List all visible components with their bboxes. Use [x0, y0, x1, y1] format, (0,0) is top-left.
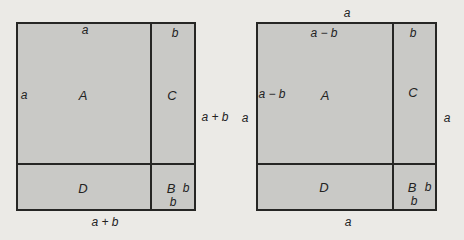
left-square-region-d-label: D — [78, 182, 87, 195]
right-square-b-side-label-below: b — [411, 195, 418, 207]
left-square-left-side-label: a — [21, 89, 28, 101]
left-square-b-side-label-right: b — [183, 182, 190, 194]
right-square-region-a-label: A — [321, 89, 330, 102]
right-square-b-side-label-right: b — [425, 181, 432, 193]
right-square-left-side-label: a − b — [258, 88, 285, 100]
right-square-top-outer-label: a — [344, 7, 351, 19]
right-square-right-outer-label: a — [444, 112, 451, 124]
left-square-right-outer-label: a + b — [201, 111, 228, 123]
right-square-region-d-label: D — [319, 181, 328, 194]
left-square-region-a-label: A — [79, 89, 88, 102]
right-square-horizontal-divider — [258, 163, 435, 165]
right-square-region-c-label: C — [408, 86, 417, 99]
left-square-b-side-label-below: b — [170, 196, 177, 208]
right-square-top-side-label: a − b — [310, 27, 337, 39]
left-square-horizontal-divider — [18, 163, 194, 165]
left-square-top-right-side-label: b — [172, 27, 179, 39]
right-square-region-b-label: B — [408, 181, 417, 194]
left-square-vertical-divider — [150, 24, 152, 209]
left-square-bottom-outer-label: a + b — [91, 216, 118, 228]
right-square-bottom-outer-label: a — [345, 216, 352, 228]
left-square-top-side-label: a — [82, 24, 89, 36]
left-square-region-c-label: C — [167, 89, 176, 102]
left-square-region-b-label: B — [167, 182, 176, 195]
diagram-canvas: a b a A C D B b b a + b a + b a a − b b … — [0, 0, 464, 240]
right-square-left-outer-label: a — [242, 112, 249, 124]
right-square-top-right-side-label: b — [410, 27, 417, 39]
right-square-vertical-divider — [392, 24, 394, 209]
